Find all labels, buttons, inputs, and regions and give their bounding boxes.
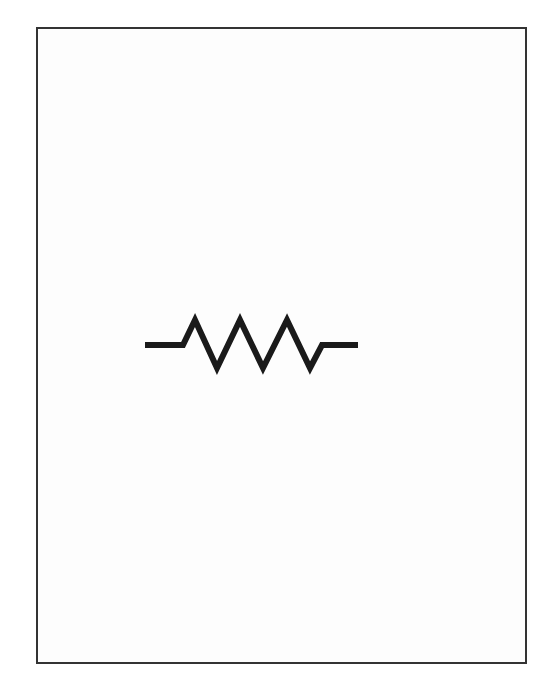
resistor-icon (0, 0, 555, 695)
resistor-zigzag (145, 320, 358, 368)
